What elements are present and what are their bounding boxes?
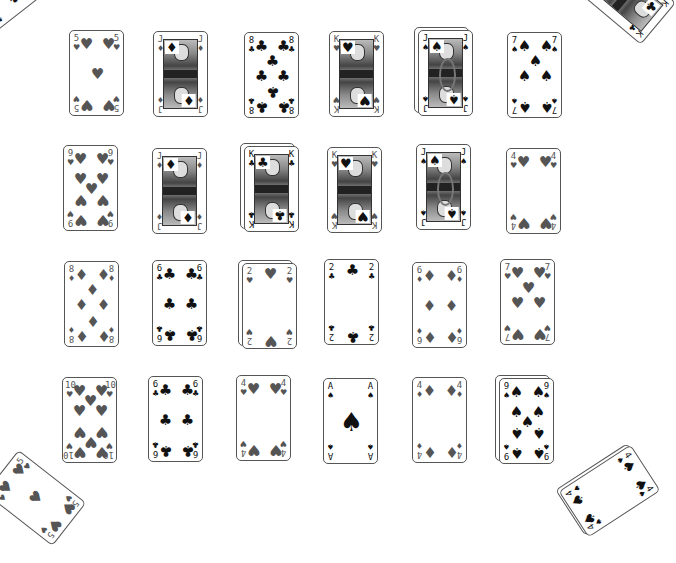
face-oval-ornament <box>439 58 456 92</box>
card-r2-c6[interactable]: 4♥4♥4♥4♥♥♥♥♥ <box>506 148 561 234</box>
club-pip-icon: ♣ <box>158 413 173 428</box>
card-r2-c5[interactable]: J♠J♠J♠J♠♠♠ <box>416 144 471 230</box>
card-index-br: 2♥ <box>285 327 294 345</box>
card-r1-c4[interactable]: K♥K♥K♥K♥♥♥ <box>329 31 384 117</box>
spade-pip-icon: ♠ <box>4 0 25 9</box>
card-r3-c3[interactable]: 2♥2♥2♥2♥♥♥ <box>242 263 297 349</box>
heart-pip-icon: ♥ <box>538 154 553 169</box>
club-pip-icon: ♣ <box>254 69 269 84</box>
spade-pip-icon: ♠ <box>509 425 524 440</box>
card-r3-c2[interactable]: 6♣6♣6♣6♣♣♣♣♣♣♣ <box>152 260 207 346</box>
club-pip-icon: ♣ <box>162 266 177 281</box>
spade-icon: ♠ <box>445 207 459 220</box>
diamond-icon: ♦ <box>182 94 196 107</box>
spade-icon: ♠ <box>326 391 335 400</box>
face-card-artwork: ♦♦ <box>163 39 198 109</box>
card-r4-c3[interactable]: 4♥4♥4♥4♥♥♥♥♥ <box>236 375 291 461</box>
heart-pip-icon: ♥ <box>79 36 94 51</box>
spade-icon: ♠ <box>430 40 444 53</box>
club-pip-icon: ♣ <box>276 69 291 84</box>
heart-pip-icon: ♥ <box>538 215 553 230</box>
playing-card[interactable]: 5♥5♥5♥5♥♥♥♥♥♥ <box>0 450 86 546</box>
club-pip-icon: ♣ <box>345 263 360 278</box>
club-icon: ♣ <box>587 0 600 1</box>
face-card-artwork: ♥♥ <box>337 155 372 225</box>
spade-pip-icon: ♠ <box>539 69 554 84</box>
card-r2-c3[interactable]: K♣K♣K♣K♣♣♣ <box>244 146 299 232</box>
heart-pip-icon: ♥ <box>263 332 278 347</box>
card-r3-c5[interactable]: 6♦6♦6♦6♦♦♦♦♦♦♦ <box>412 262 467 348</box>
heart-pip-icon: ♥ <box>95 212 110 227</box>
card-r1-c1[interactable]: 5♥5♥5♥5♥♥♥♥♥♥ <box>69 30 124 116</box>
diamond-icon: ♦ <box>164 158 178 171</box>
diamond-pip-icon: ♦ <box>444 268 459 283</box>
face-card-artwork: ♦♦ <box>162 156 197 226</box>
card-rank-label: 2 <box>367 263 376 272</box>
heart-icon: ♥ <box>285 327 294 336</box>
top-left-pile[interactable]: 6♠6♠6♠6♠♠♠♠♠♠♠ <box>0 0 58 36</box>
spade-pip-icon: ♠ <box>509 445 524 460</box>
top-right-pile[interactable]: K♣K♣K♣K♣♣♣ <box>575 0 676 45</box>
card-r1-c2[interactable]: J♦J♦J♦J♦♦♦ <box>153 31 208 117</box>
playing-card[interactable]: 4♠4♠4♠4♠♠♠♠♠ <box>558 445 660 538</box>
face-card-artwork: ♠♠ <box>426 152 461 222</box>
card-r4-c2[interactable]: 6♣6♣6♣6♣♣♣♣♣♣♣ <box>148 376 203 462</box>
heart-icon: ♥ <box>245 276 254 285</box>
diamond-pip-icon: ♦ <box>96 298 111 313</box>
heart-pip-icon: ♥ <box>246 381 261 396</box>
card-r2-c1[interactable]: 9♥9♥9♥9♥♥♥♥♥♥♥♥♥♥ <box>63 145 118 231</box>
card-index-bl: 2♥ <box>245 327 254 345</box>
face-card-band <box>164 70 197 78</box>
bottom-left-pile[interactable]: 5♥5♥5♥5♥♥♥♥♥♥ <box>0 450 86 546</box>
heart-pip-icon: ♥ <box>268 442 283 457</box>
card-r2-c4[interactable]: K♥K♥K♥K♥♥♥ <box>327 147 382 233</box>
card-rank-label: 2 <box>327 332 336 341</box>
heart-pip-icon: ♥ <box>532 326 547 341</box>
spade-pip-icon: ♠ <box>517 99 532 114</box>
card-index-br: 2♣ <box>367 323 376 341</box>
card-r4-c1[interactable]: 10♥10♥10♥10♥♥♥♥♥♥♥♥♥♥♥ <box>62 377 117 463</box>
heart-icon: ♥ <box>339 157 353 170</box>
diamond-pip-icon: ♦ <box>444 383 459 398</box>
playing-card[interactable]: K♣K♣K♣K♣♣♣ <box>575 0 676 45</box>
card-r3-c4[interactable]: 2♣2♣2♣2♣♣♣ <box>324 259 379 345</box>
playing-card[interactable]: 6♠6♠6♠6♠♠♠♠♠♠♠ <box>0 0 58 36</box>
spade-icon: ♠ <box>366 391 375 400</box>
spade-pip-icon: ♠ <box>539 99 554 114</box>
bottom-right-pile[interactable]: 4♠4♠4♠4♠♠♠♠♠ <box>558 445 660 538</box>
card-r4-c5[interactable]: 4♦4♦4♦4♦♦♦♦♦ <box>412 377 467 463</box>
heart-pip-icon: ♥ <box>90 67 105 82</box>
heart-pip-icon: ♥ <box>94 444 109 459</box>
card-r4-c4[interactable]: A♠A♠A♠A♠♠ <box>323 378 378 464</box>
card-r1-c5[interactable]: J♠J♠J♠J♠♠♠ <box>418 30 473 116</box>
heart-pip-icon: ♥ <box>95 151 110 166</box>
club-pip-icon: ♣ <box>180 382 195 397</box>
card-rank-label: 2 <box>285 267 294 276</box>
card-r1-c3[interactable]: 8♣8♣8♣8♣♣♣♣♣♣♣♣♣ <box>244 32 299 118</box>
card-r3-c6[interactable]: 7♥7♥7♥7♥♥♥♥♥♥♥♥ <box>500 259 555 345</box>
card-r2-c2[interactable]: J♦J♦J♦J♦♦♦ <box>152 148 207 234</box>
diamond-pip-icon: ♦ <box>444 329 459 344</box>
card-r4-c6[interactable]: 9♠9♠9♠9♠♠♠♠♠♠♠♠♠♠ <box>499 378 554 464</box>
card-r1-c6[interactable]: 7♠7♠7♠7♠♠♠♠♠♠♠♠ <box>507 32 562 118</box>
club-pip-icon: ♣ <box>184 327 199 342</box>
card-rank-label: A <box>366 451 375 460</box>
club-pip-icon: ♣ <box>184 266 199 281</box>
heart-pip-icon: ♥ <box>532 296 547 311</box>
spade-icon: ♠ <box>0 13 6 26</box>
club-pip-icon: ♣ <box>254 99 269 114</box>
card-r3-c1[interactable]: 8♦8♦8♦8♦♦♦♦♦♦♦♦♦ <box>64 261 119 347</box>
card-rank-label: A <box>366 382 375 391</box>
heart-pip-icon: ♥ <box>79 97 94 112</box>
club-pip-icon: ♣ <box>345 328 360 343</box>
face-card-band <box>340 70 373 78</box>
heart-pip-icon: ♥ <box>101 97 116 112</box>
diamond-pip-icon: ♦ <box>422 299 437 314</box>
heart-icon: ♥ <box>285 276 294 285</box>
diamond-icon: ♦ <box>165 41 179 54</box>
diamond-pip-icon: ♦ <box>422 268 437 283</box>
heart-pip-icon: ♥ <box>268 381 283 396</box>
spade-pip-icon: ♠ <box>531 445 546 460</box>
club-pip-icon: ♣ <box>276 99 291 114</box>
face-card-artwork: ♥♥ <box>339 39 374 109</box>
